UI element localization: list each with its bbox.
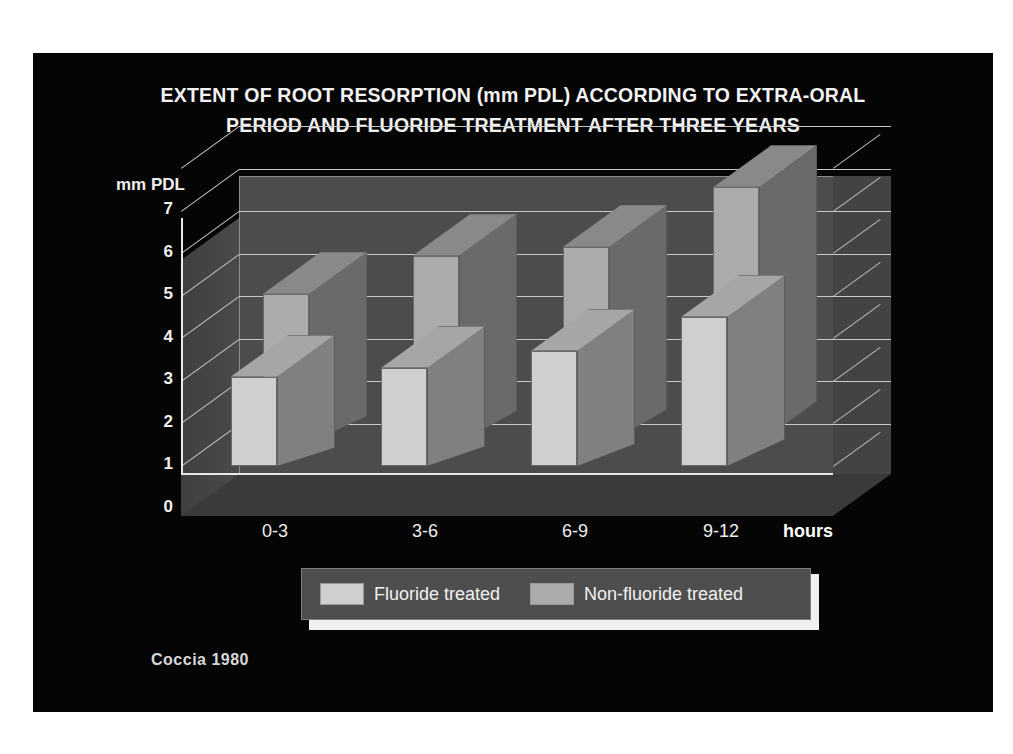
y-axis-tick-5: 5	[139, 284, 173, 304]
slide-canvas: EXTENT OF ROOT RESORPTION (mm PDL) ACCOR…	[33, 53, 993, 712]
bar-3-6-fluoride	[381, 368, 427, 466]
legend-label: Non-fluoride treated	[584, 584, 743, 605]
legend-item-non-fluoride-treated: Non-fluoride treated	[530, 583, 743, 605]
title-line-1: EXTENT OF ROOT RESORPTION (mm PDL) ACCOR…	[33, 80, 993, 110]
legend-swatch	[530, 583, 574, 605]
page-title: EXTENT OF ROOT RESORPTION (mm PDL) ACCOR…	[33, 80, 993, 140]
gridline-depth-left	[181, 169, 240, 212]
y-axis-tick-3: 3	[139, 369, 173, 389]
x-axis-category-3-6: 3-6	[370, 521, 480, 542]
x-axis-category-0-3: 0-3	[220, 521, 330, 542]
bar-front-face	[231, 377, 277, 466]
bar-front-face	[681, 317, 727, 466]
bar-6-9-fluoride	[531, 351, 577, 466]
y-axis-tick-7: 7	[139, 199, 173, 219]
bar-front-face	[381, 368, 427, 466]
chart-legend: Fluoride treatedNon-fluoride treated	[301, 568, 811, 620]
x-axis-line	[181, 473, 833, 475]
legend-swatch	[320, 583, 364, 605]
chart-floor	[181, 474, 891, 516]
y-axis-line	[181, 218, 183, 474]
x-axis-category-9-12: 9-12	[666, 521, 776, 542]
legend-item-fluoride-treated: Fluoride treated	[320, 583, 500, 605]
chart-left-wall	[181, 218, 239, 516]
chart-plot-area: 76543210 0-33-66-99-12 hours	[143, 168, 863, 518]
y-axis-tick-0: 0	[139, 497, 173, 517]
legend-label: Fluoride treated	[374, 584, 500, 605]
title-line-2: PERIOD AND FLUORIDE TREATMENT AFTER THRE…	[33, 110, 993, 140]
x-axis-category-6-9: 6-9	[520, 521, 630, 542]
bar-0-3-fluoride	[231, 377, 277, 466]
y-axis-tick-6: 6	[139, 242, 173, 262]
bar-front-face	[531, 351, 577, 466]
gridline-horizontal	[239, 126, 891, 127]
citation-text: Coccia 1980	[151, 651, 249, 669]
chart-right-wall	[833, 176, 891, 474]
x-axis-unit-label: hours	[783, 521, 833, 542]
y-axis-tick-2: 2	[139, 412, 173, 432]
bar-9-12-fluoride	[681, 317, 727, 466]
y-axis-tick-4: 4	[139, 327, 173, 347]
y-axis-tick-1: 1	[139, 454, 173, 474]
